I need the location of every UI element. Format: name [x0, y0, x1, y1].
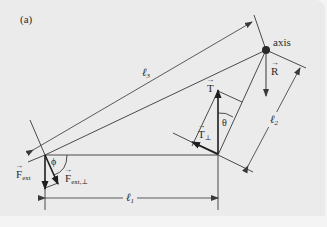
fext-subscript: ext — [22, 174, 31, 182]
l3-dimension-line — [33, 22, 252, 150]
theta-label: θ — [222, 118, 227, 128]
fext-perp-subscript: ext,⊥ — [71, 178, 88, 186]
l3-subscript: 3 — [147, 72, 151, 80]
arm-to-axis-line — [45, 50, 266, 155]
t-parallel-line-right — [218, 91, 242, 102]
l2-subscript: 2 — [275, 119, 279, 127]
axis-extension-line — [254, 15, 266, 50]
phi-label: ϕ — [51, 157, 56, 167]
axis-label: axis — [273, 37, 291, 48]
fext-perp-line-b — [45, 183, 58, 188]
panel-label: (a) — [20, 14, 32, 25]
r-symbol: R — [271, 66, 278, 77]
t-symbol: T — [207, 83, 214, 94]
r-label: R — [271, 66, 278, 77]
fext-perp-symbol: F — [65, 173, 71, 184]
l2-label: ℓ2 — [270, 114, 278, 127]
axis-to-t-line — [218, 50, 266, 155]
t-perp-label: T⊥ — [198, 129, 211, 142]
fext-symbol: F — [16, 169, 22, 180]
left-extension-line — [30, 120, 45, 155]
l3-label: ℓ3 — [142, 67, 150, 80]
fext-perp-label: Fext,⊥ — [65, 173, 88, 186]
t-perp-subscript: ⊥ — [205, 134, 212, 142]
axis-point — [262, 46, 270, 54]
t-perp-symbol: T — [198, 129, 205, 140]
l1-subscript: 1 — [131, 197, 135, 205]
fext-perp-line-a — [28, 155, 45, 162]
l1-label: ℓ1 — [126, 192, 134, 205]
t-perp-vector-arrow — [192, 142, 218, 154]
t-label: T — [207, 83, 214, 94]
fext-label: Fext — [16, 169, 31, 182]
